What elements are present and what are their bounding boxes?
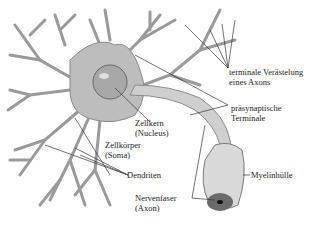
label-axon-line1: Nervenfaser (135, 193, 177, 203)
nucleus-graphic (93, 65, 127, 99)
label-soma: Zellkörper (Soma) (105, 140, 141, 160)
label-axon: Nervenfaser (Axon) (135, 193, 177, 213)
label-presynaptic-terminal: präsynaptische Terminale (231, 103, 282, 123)
label-presyn-line1: präsynaptische (231, 103, 282, 113)
label-myelin: Myelinhülle (251, 170, 293, 180)
label-nucleus-line1: Zellkern (135, 118, 169, 128)
label-dendrites: Dendriten (127, 170, 161, 180)
label-axon-line2: (Axon) (135, 203, 177, 213)
neuron-diagram: terminale Verästelung eines Axons präsyn… (0, 0, 310, 226)
label-nucleus: Zellkern (Nucleus) (135, 118, 169, 138)
axon-core (217, 200, 223, 204)
label-soma-line2: (Soma) (105, 150, 141, 160)
label-presyn-line2: Terminale (231, 113, 282, 123)
label-terminal-line1: terminale Verästelung (229, 67, 303, 77)
label-terminal-branching: terminale Verästelung eines Axons (229, 67, 303, 87)
label-terminal-line2: eines Axons (229, 77, 303, 87)
label-soma-line1: Zellkörper (105, 140, 141, 150)
label-nucleus-line2: (Nucleus) (135, 128, 169, 138)
label-dendrites-line1: Dendriten (127, 170, 161, 180)
nucleus-highlight (99, 73, 109, 79)
label-myelin-line1: Myelinhülle (251, 170, 293, 180)
